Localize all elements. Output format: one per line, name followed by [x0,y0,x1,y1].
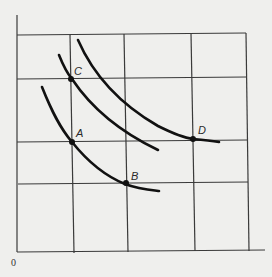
point-d [190,136,196,142]
origin-label: 0 [11,257,16,268]
indifference-curve-diagram: A B C D 0 [0,0,272,277]
label-a: A [75,127,83,139]
grid-v-2 [124,34,128,252]
indifference-curve-1 [42,87,159,191]
label-b: B [131,170,138,182]
label-d: D [198,124,206,136]
x-axis [17,250,265,252]
grid-v-4 [246,33,249,251]
point-a [69,139,75,145]
point-b [123,180,129,186]
grid-h-4 [18,182,248,184]
grid-h-1 [17,33,246,35]
label-c: C [74,65,82,77]
grid-h-2 [17,77,247,79]
grid [17,15,265,253]
